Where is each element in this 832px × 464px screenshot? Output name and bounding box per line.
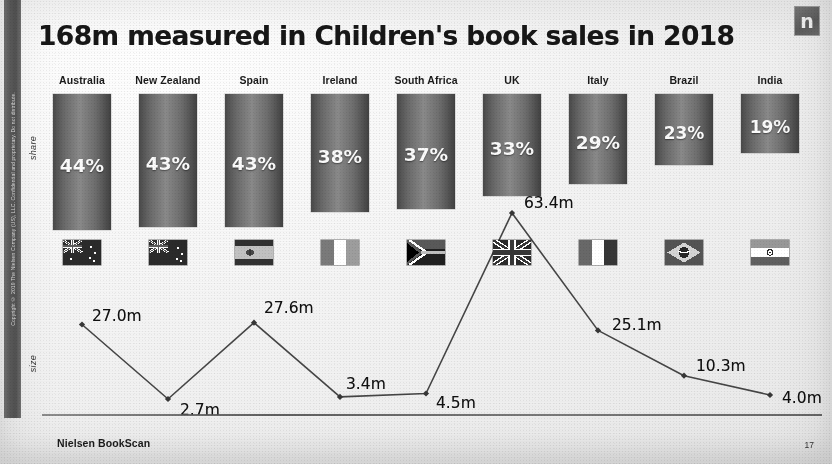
share-bar: 23% — [655, 94, 713, 165]
share-bar: 43% — [139, 94, 197, 227]
flag-ireland-icon — [321, 240, 359, 265]
share-value-label: 43% — [232, 153, 276, 174]
size-value-label: 4.0m — [782, 389, 822, 407]
size-data-point — [79, 321, 85, 327]
source-label: Nielsen BookScan — [57, 437, 150, 449]
country-label: Australia — [40, 74, 124, 86]
size-value-label: 3.4m — [346, 375, 386, 393]
country-label: Ireland — [298, 74, 382, 86]
share-value-label: 33% — [490, 138, 534, 159]
country-label: Italy — [556, 74, 640, 86]
share-value-label: 37% — [404, 144, 448, 165]
share-value-label: 43% — [146, 153, 190, 174]
size-value-label: 25.1m — [612, 316, 662, 334]
size-value-label: 2.7m — [180, 401, 220, 419]
flag-new-zealand-icon — [149, 240, 187, 265]
share-bar: 19% — [741, 94, 799, 153]
share-value-label: 44% — [60, 155, 104, 176]
size-value-label: 4.5m — [436, 394, 476, 412]
size-value-label: 63.4m — [524, 194, 574, 212]
size-line-points — [79, 210, 773, 402]
country-label: Spain — [212, 74, 296, 86]
share-bar: 38% — [311, 94, 369, 212]
share-bar: 29% — [569, 94, 627, 184]
country-label: India — [728, 74, 812, 86]
size-line-chart — [0, 0, 832, 464]
size-value-label: 27.0m — [92, 307, 142, 325]
flag-australia-icon — [63, 240, 101, 265]
country-label: New Zealand — [126, 74, 210, 86]
share-bar: 33% — [483, 94, 541, 196]
share-value-label: 23% — [664, 123, 705, 143]
size-data-point — [767, 392, 773, 398]
chart-area: Australia44% 27.0mNew Zealand43% 2.7mSpa… — [0, 0, 832, 464]
page-number: 17 — [805, 440, 814, 450]
flag-india-icon — [751, 240, 789, 265]
flag-brazil-icon — [665, 240, 703, 265]
size-value-label: 10.3m — [696, 357, 746, 375]
share-bar: 37% — [397, 94, 455, 209]
share-value-label: 19% — [750, 117, 791, 137]
country-label: Brazil — [642, 74, 726, 86]
share-value-label: 38% — [318, 146, 362, 167]
flag-south-africa-icon — [407, 240, 445, 265]
size-data-point — [595, 327, 601, 333]
country-label: South Africa — [384, 74, 468, 86]
flag-italy-icon — [579, 240, 617, 265]
size-data-point — [509, 210, 515, 216]
size-data-point — [681, 373, 687, 379]
size-data-point — [165, 396, 171, 402]
share-value-label: 29% — [576, 132, 620, 153]
country-label: UK — [470, 74, 554, 86]
size-data-point — [251, 320, 257, 326]
size-data-point — [337, 394, 343, 400]
baseline-axis — [42, 414, 822, 416]
flag-united-kingdom-icon — [493, 240, 531, 265]
share-bar: 44% — [53, 94, 111, 230]
flag-spain-icon — [235, 240, 273, 265]
size-data-point — [423, 390, 429, 396]
share-bar: 43% — [225, 94, 283, 227]
size-value-label: 27.6m — [264, 299, 314, 317]
